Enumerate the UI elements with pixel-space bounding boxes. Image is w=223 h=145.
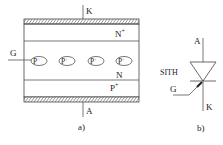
gate-arrow-icon	[197, 82, 202, 87]
symbol-gate-lead	[173, 82, 202, 95]
symbol-anode-label: A	[194, 36, 201, 46]
n-drift-label: N	[116, 70, 123, 80]
caption-a: a)	[78, 122, 85, 132]
device-name-label: SITH	[160, 68, 178, 77]
diode-triangle-icon	[190, 62, 216, 81]
anode-metal	[24, 97, 139, 102]
symbol-gate-label: G	[170, 84, 177, 94]
gate-region: P+	[31, 57, 47, 67]
cathode-label: K	[86, 6, 93, 16]
gate-region: P+	[59, 57, 75, 67]
gate-region: P+	[88, 57, 104, 67]
p-plus-label: P+	[110, 82, 119, 93]
gate-region: P+	[116, 57, 132, 67]
symbol-cathode-label: K	[206, 102, 213, 112]
cathode-metal	[24, 19, 139, 24]
anode-label: A	[86, 106, 93, 116]
n-plus-label: N+	[115, 28, 126, 39]
symbol-panel: A SITH G K b)	[160, 36, 216, 133]
gate-label: G	[10, 48, 17, 58]
sith-diagram: K N+ G P+ P+ P+ P+ N P+	[0, 0, 223, 145]
caption-b: b)	[197, 123, 205, 133]
cross-section-panel: K N+ G P+ P+ P+ P+ N P+	[8, 5, 139, 132]
